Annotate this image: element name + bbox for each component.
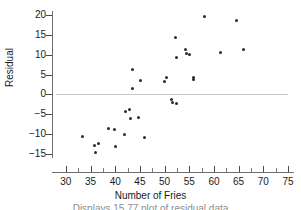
y-axis-tick-label: 15: [22, 30, 46, 40]
x-axis-minor-tick: [202, 168, 203, 172]
y-axis-tick: [46, 134, 52, 135]
x-axis-minor-tick: [103, 168, 104, 172]
y-axis-tick: [46, 55, 52, 56]
x-axis-tick-label: 60: [201, 176, 227, 187]
x-axis-tick-label: 55: [176, 176, 202, 187]
x-axis-tick: [288, 166, 289, 172]
x-axis-tick: [91, 166, 92, 172]
x-axis-line: [52, 172, 294, 173]
x-axis-tick-label: 35: [78, 176, 104, 187]
y-axis-tick: [46, 114, 52, 115]
data-point: [137, 116, 140, 119]
data-point: [165, 76, 168, 79]
x-axis-minor-tick: [251, 168, 252, 172]
data-point: [175, 56, 178, 59]
data-point: [235, 19, 238, 22]
x-axis-minor-tick: [177, 168, 178, 172]
x-axis-tick: [189, 166, 190, 172]
data-point: [143, 136, 146, 139]
y-axis-tick-label: 20: [22, 10, 46, 20]
y-axis-tick: [46, 35, 52, 36]
data-point: [131, 68, 134, 71]
y-axis-tick: [46, 154, 52, 155]
x-axis-minor-tick: [78, 168, 79, 172]
data-point: [97, 142, 100, 145]
y-axis-title: Residual: [4, 31, 15, 105]
data-point: [219, 51, 222, 54]
y-axis-tick: [46, 94, 52, 95]
data-point: [171, 101, 174, 104]
x-axis-tick: [214, 166, 215, 172]
data-point: [163, 80, 166, 83]
data-point: [94, 151, 97, 154]
data-point: [114, 145, 117, 148]
y-axis-line: [52, 11, 53, 158]
data-point: [81, 135, 84, 138]
y-axis-tick-label: −5: [22, 109, 46, 119]
x-axis-tick: [115, 166, 116, 172]
x-axis-tick-label: 30: [53, 176, 79, 187]
y-axis-tick: [46, 75, 52, 76]
data-point: [175, 102, 178, 105]
x-axis-tick: [263, 166, 264, 172]
x-axis-tick: [165, 166, 166, 172]
data-point: [93, 144, 96, 147]
x-axis-minor-tick: [152, 168, 153, 172]
data-point: [192, 78, 195, 81]
data-point: [113, 128, 116, 131]
y-axis-tick: [46, 15, 52, 16]
x-axis-tick-label: 45: [127, 176, 153, 187]
data-point: [124, 110, 127, 113]
x-axis-tick-label: 75: [275, 176, 301, 187]
x-axis-title: Number of Fries: [0, 190, 301, 201]
zero-reference-line: [56, 94, 288, 95]
plot-area: [56, 11, 288, 158]
data-point: [242, 48, 245, 51]
x-axis-tick-label: 70: [250, 176, 276, 187]
x-axis-minor-tick: [226, 168, 227, 172]
residual-scatter-figure: −15−10−505101520 Residual Number of Frie…: [0, 0, 301, 210]
data-point: [128, 108, 131, 111]
x-axis-tick: [66, 166, 67, 172]
data-point: [129, 117, 132, 120]
data-point: [131, 87, 134, 90]
data-point: [188, 53, 191, 56]
y-axis-tick-labels: −15−10−505101520: [16, 0, 46, 210]
y-axis-tick-label: 10: [22, 50, 46, 60]
y-axis-tick-label: −10: [22, 129, 46, 139]
x-axis-tick: [239, 166, 240, 172]
data-point: [203, 15, 206, 18]
data-point: [174, 36, 177, 39]
data-point: [184, 48, 187, 51]
data-point: [123, 133, 126, 136]
y-axis-tick-label: −15: [22, 149, 46, 159]
x-axis-tick-label: 65: [226, 176, 252, 187]
x-axis-tick-label: 50: [152, 176, 178, 187]
data-point: [139, 79, 142, 82]
y-axis-tick-label: 5: [22, 70, 46, 80]
figure-caption: Displays 15.77 plot of residual data: [0, 203, 301, 210]
x-axis-tick: [140, 166, 141, 172]
x-axis-minor-tick: [128, 168, 129, 172]
data-point: [107, 127, 110, 130]
x-axis-minor-tick: [276, 168, 277, 172]
x-axis-tick-label: 40: [102, 176, 128, 187]
y-axis-tick-label: 0: [22, 89, 46, 99]
